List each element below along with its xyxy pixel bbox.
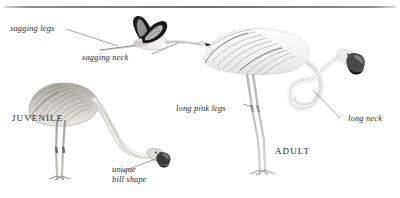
age-label-juvenile: JUVENILE [12, 113, 63, 123]
annotation-long-pink-legs: long pink legs [176, 103, 226, 113]
annotation-unique-bill-line2: bill shape [112, 174, 147, 184]
leader-sagging-legs [66, 29, 118, 46]
figure-juvenile-flamingo [29, 83, 171, 180]
flamingo-artwork [0, 0, 400, 198]
annotation-unique-bill-line1: unique [112, 164, 136, 174]
annotation-sagging-legs: sagging legs [10, 23, 55, 33]
annotation-long-neck: long neck [348, 113, 382, 123]
age-label-adult: ADULT [275, 146, 310, 156]
illustration-page: sagging legs sagging neck unique bill sh… [0, 0, 400, 198]
annotation-sagging-neck: sagging neck [82, 52, 128, 62]
